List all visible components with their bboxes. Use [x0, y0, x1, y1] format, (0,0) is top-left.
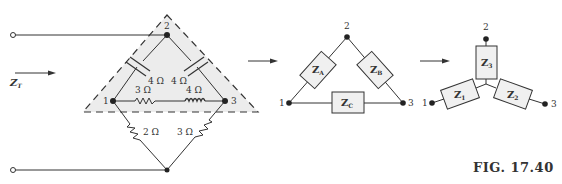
- delta-node-2-dot: [344, 34, 350, 40]
- wye-node-2-label: 2: [483, 22, 489, 32]
- wye-node-3-dot: [542, 101, 548, 107]
- input-terminal-bottom: [11, 168, 16, 173]
- node-bottom-dot: [165, 168, 170, 173]
- delta-network: ZA ZB ZC 2 1 3: [279, 21, 414, 113]
- delta-node-1-dot: [286, 100, 292, 106]
- wye-node-1-dot: [429, 100, 435, 106]
- wye-node-1-label: 1: [422, 98, 428, 108]
- delta-node-3-label: 3: [408, 98, 414, 108]
- resistor-2ohm-label: 2 Ω: [143, 127, 159, 137]
- transform-arrow-icon: [248, 59, 278, 64]
- figure-caption: FIG. 17.40: [473, 160, 554, 175]
- wye-network: Z3 Z1 Z2 2 1 3: [422, 22, 557, 109]
- node-3-label: 3: [231, 96, 237, 106]
- delta-node-1-label: 1: [279, 98, 285, 108]
- capacitor-right-label: 4 Ω: [171, 76, 187, 86]
- node-1-dot: [110, 98, 116, 104]
- node-3-dot: [222, 98, 228, 104]
- zt-arrow-icon: [15, 71, 56, 76]
- transform-arrow-2-icon: [420, 59, 450, 64]
- node-1-label: 1: [103, 96, 109, 106]
- node-2-label: 2: [164, 21, 170, 31]
- node-2-dot: [164, 32, 170, 38]
- inductor-4ohm-label: 4 Ω: [186, 85, 202, 95]
- resistor-3ohm-label: 3 Ω: [135, 85, 151, 95]
- delta-node-3-dot: [400, 100, 406, 106]
- circuit-diagram: ZT 4 Ω 4 Ω 3 Ω 4 Ω 2 Ω: [0, 0, 562, 184]
- input-terminal-top: [11, 33, 16, 38]
- wye-node-2-dot: [483, 36, 489, 42]
- zt-label: ZT: [9, 77, 22, 89]
- delta-node-2-label: 2: [344, 21, 350, 31]
- original-network: ZT 4 Ω 4 Ω 3 Ω 4 Ω 2 Ω: [9, 15, 258, 173]
- wye-node-3-label: 3: [551, 99, 557, 109]
- resistor-3ohm-lower-label: 3 Ω: [177, 127, 193, 137]
